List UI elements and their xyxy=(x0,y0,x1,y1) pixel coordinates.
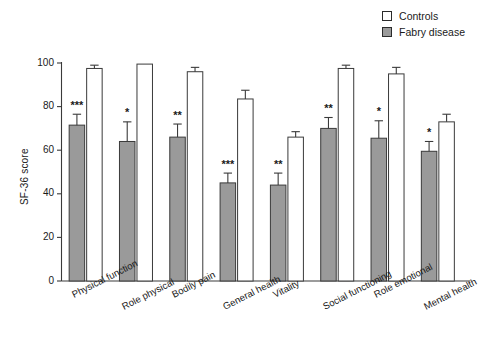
legend-label-controls: Controls xyxy=(399,10,438,22)
bar-controls-bodily-pain xyxy=(187,72,203,281)
y-tick-label-0: 0 xyxy=(26,275,54,286)
legend-item-fabry-disease: Fabry disease xyxy=(382,26,465,38)
bar-fabry-disease-physical-function xyxy=(69,125,85,281)
significance-marker: * xyxy=(125,106,130,118)
chart-legend: Controls Fabry disease xyxy=(382,10,465,38)
significance-marker: *** xyxy=(70,99,84,111)
y-tick-label-40: 40 xyxy=(26,187,54,198)
bar-controls-role-emotional xyxy=(389,74,405,281)
bar-fabry-disease-general-health xyxy=(220,183,236,281)
y-tick-label-80: 80 xyxy=(26,100,54,111)
legend-item-controls: Controls xyxy=(382,10,465,22)
bar-controls-general-health xyxy=(238,99,254,281)
plot-area: *************** xyxy=(0,0,479,362)
bar-fabry-disease-social-functioning xyxy=(321,128,337,281)
bar-fabry-disease-vitality xyxy=(270,185,286,281)
bar-fabry-disease-bodily-pain xyxy=(170,137,186,281)
legend-swatch-filled-square-icon xyxy=(382,27,392,37)
significance-marker: ** xyxy=(274,158,283,170)
legend-label-fabry-disease: Fabry disease xyxy=(399,26,465,38)
bar-controls-mental-health xyxy=(439,122,455,281)
significance-marker: * xyxy=(377,105,382,117)
significance-marker: ** xyxy=(324,102,333,114)
significance-marker: ** xyxy=(173,109,182,121)
y-tick-label-20: 20 xyxy=(26,231,54,242)
bar-controls-social-functioning xyxy=(338,68,354,281)
bar-fabry-disease-role-emotional xyxy=(371,138,387,281)
legend-swatch-open-square-icon xyxy=(382,11,392,21)
bar-controls-physical-function xyxy=(87,68,103,281)
bar-controls-vitality xyxy=(288,137,304,281)
y-tick-label-100: 100 xyxy=(26,57,54,68)
bar-controls-role-physical xyxy=(137,64,153,281)
sf36-bar-chart-figure: Controls Fabry disease SF-36 score 02040… xyxy=(0,0,479,362)
y-tick-label-60: 60 xyxy=(26,144,54,155)
significance-marker: *** xyxy=(221,158,235,170)
significance-marker: * xyxy=(427,126,432,138)
